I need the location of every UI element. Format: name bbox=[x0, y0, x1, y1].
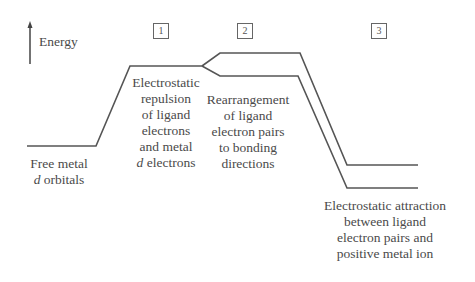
step-2-marker: 2 bbox=[237, 23, 253, 39]
attraction-label: Electrostatic attraction between ligand … bbox=[320, 198, 450, 262]
energy-axis-label: Energy bbox=[39, 34, 78, 50]
energy-arrow-icon bbox=[28, 21, 33, 64]
step-1-marker: 1 bbox=[153, 23, 169, 39]
repulsion-label: Electrostatic repulsion of ligand electr… bbox=[128, 75, 204, 171]
free-metal-label: Free metal d orbitals bbox=[26, 156, 92, 188]
rearrangement-label: Rearrangement of ligand electron pairs t… bbox=[204, 92, 292, 172]
step-3-marker: 3 bbox=[371, 23, 387, 39]
